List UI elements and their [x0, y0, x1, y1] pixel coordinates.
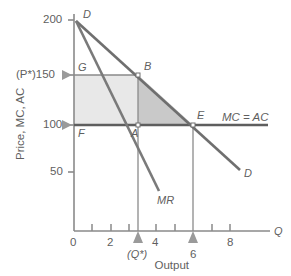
chart-canvas	[0, 0, 291, 276]
curve-label-d: D	[244, 168, 252, 179]
cost-level-triangle-marker	[62, 120, 72, 130]
competitive-q-triangle-marker	[188, 231, 198, 243]
y-tick-label-100: 100	[43, 119, 62, 131]
point-marker-B	[136, 73, 140, 77]
point-marker-E	[191, 123, 195, 127]
y-tick-label-50: 50	[50, 166, 63, 178]
qstar-triangle-marker	[133, 231, 143, 243]
point-label-D-top: D	[83, 9, 91, 20]
y-axis-title: Price, MC, AC	[14, 88, 26, 160]
point-label-B: B	[144, 61, 151, 72]
curve-label-mr: MR	[157, 195, 174, 206]
competitive-q-label: 6	[190, 249, 196, 261]
x-axis-name-Q: Q	[274, 226, 283, 237]
y-tick-label-150: (P*)150	[16, 69, 55, 81]
point-label-E: E	[197, 110, 204, 121]
x-tick-label-4: 4	[152, 237, 158, 249]
point-label-G: G	[78, 62, 87, 73]
deadweight-loss-triangle-shade	[138, 75, 193, 125]
point-label-F: F	[78, 128, 85, 139]
point-label-A: A	[131, 128, 138, 139]
x-axis-title: Output	[155, 259, 190, 271]
qstar-label: (Q*)	[127, 249, 147, 260]
monopoly-chart: 200 (P*)150 100 50 0 2 4 8 (Q*) 6 Q D G …	[0, 0, 291, 276]
pstar-triangle-marker	[62, 70, 72, 80]
x-tick-label-2: 2	[107, 237, 113, 249]
x-tick-label-8: 8	[227, 237, 233, 249]
y-tick-label-200: 200	[43, 14, 62, 26]
curve-label-mc-ac: MC = AC	[222, 112, 269, 124]
x-tick-label-0: 0	[70, 237, 76, 249]
